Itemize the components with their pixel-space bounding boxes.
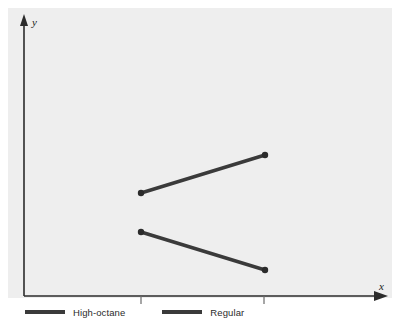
- legend-label: Regular: [210, 307, 244, 318]
- x-axis-arrow-icon: [374, 291, 388, 301]
- legend-item-high-octane: High-octane: [25, 307, 125, 318]
- y-axis-arrow-icon: [20, 14, 28, 26]
- legend-item-regular: Regular: [162, 307, 244, 318]
- y-axis-label: y: [31, 16, 37, 28]
- chart-legend: High-octane Regular: [0, 303, 410, 321]
- chart-figure: y x High-octane Regular: [0, 0, 410, 330]
- series-line-high-octane: [141, 155, 265, 193]
- data-point-high-octane-1: [138, 190, 144, 196]
- legend-swatch-icon: [162, 310, 202, 314]
- chart-canvas: y x: [0, 0, 410, 330]
- data-point-regular-2: [262, 267, 268, 273]
- x-axis-label: x: [378, 280, 384, 292]
- legend-swatch-icon: [25, 310, 65, 314]
- data-point-high-octane-2: [262, 152, 268, 158]
- series-line-regular: [141, 232, 265, 270]
- legend-label: High-octane: [73, 307, 125, 318]
- data-point-regular-1: [138, 229, 144, 235]
